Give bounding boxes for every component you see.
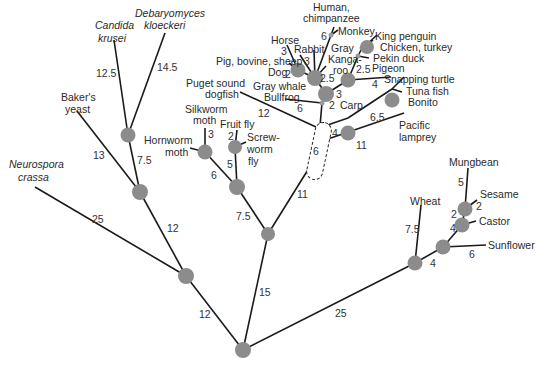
bl-fruitfly: 2	[228, 130, 234, 142]
species-neurospora: Neurospora	[9, 158, 64, 170]
bl-root-animals: 15	[259, 286, 271, 298]
species-screwworm-2: worm	[246, 143, 273, 155]
species-bakers-yeast-2: yeast	[65, 103, 90, 115]
bl-mammals: 2.5	[320, 72, 335, 84]
species-lamprey: Pacific	[399, 119, 430, 131]
bl-puget: 12	[258, 107, 270, 119]
node-human-monkey	[329, 33, 334, 38]
species-lamprey-2: lamprey	[399, 131, 437, 143]
node-fungi	[178, 268, 194, 284]
bl-vert-internal: 6	[313, 145, 319, 157]
species-wheat: Wheat	[410, 195, 440, 207]
bl-root-plants: 25	[335, 307, 347, 319]
species-debaryomyces: Debaryomyces	[135, 7, 206, 19]
bl-animals-vertebrates: 11	[297, 188, 308, 200]
species-bonito: Bonito	[408, 96, 438, 108]
species-mungbean: Mungbean	[449, 156, 499, 168]
node-candida-debaryomyces	[121, 128, 136, 143]
vertebrate-uncertain-region	[305, 121, 333, 181]
bl-dog: 2	[285, 68, 291, 80]
species-castor: Castor	[479, 215, 510, 227]
bl-root-fungi: 12	[199, 308, 211, 320]
node-root	[235, 342, 251, 358]
bl-amniote: 3	[336, 88, 342, 100]
node-wheat	[408, 256, 423, 271]
species-rabbit: Rabbit	[294, 43, 324, 55]
bl-bakers: 13	[93, 149, 105, 161]
node-chicken-penguin	[360, 40, 374, 54]
species-hornworm: Hornworm	[144, 134, 193, 146]
bl-castor: 4	[450, 222, 456, 234]
bl-mungbean: 5	[458, 176, 464, 188]
species-bakers-yeast: Baker's	[61, 91, 96, 103]
bl-birds: 2.5	[356, 63, 371, 75]
bl-lamprey: 11	[356, 139, 367, 151]
bl-horse: 3	[281, 45, 287, 57]
node-moths	[198, 145, 213, 160]
species-monkey: Monkey	[338, 25, 376, 37]
species-screwworm-3: fly	[248, 155, 259, 167]
species-kangaroo-3: roo	[333, 64, 348, 76]
node-carp	[341, 126, 356, 141]
species-bullfrog: Bullfrog	[264, 91, 300, 103]
bl-candida: 12.5	[96, 67, 117, 79]
bl-human: 6	[321, 30, 327, 42]
bl-fungi-yeasts: 12	[167, 222, 179, 234]
species-carp: Carp	[340, 99, 363, 111]
node-yeasts	[132, 184, 148, 200]
species-pig: Pig, bovine, sheep	[216, 55, 303, 67]
node-insects	[229, 179, 245, 195]
bl-sesame-castor: 2	[451, 208, 457, 220]
species-screwworm: Screw-	[247, 131, 280, 143]
bl-tuna: 6.5	[370, 111, 385, 123]
bl-plants-sunflower: 4	[430, 257, 436, 269]
bl-tetrapod: 2	[329, 99, 335, 111]
bl-sesame: 2	[476, 200, 482, 212]
species-sunflower: Sunflower	[488, 239, 535, 251]
bl-yeasts-cd: 7.5	[137, 154, 152, 166]
species-sesame: Sesame	[480, 188, 519, 200]
species-puget-2: dogfish	[205, 88, 239, 100]
bl-sunflower: 6	[469, 248, 475, 260]
bl-turtle: 4	[372, 78, 378, 90]
bl-bullfrog: 6	[297, 102, 303, 114]
bl-wheat: 7.5	[405, 223, 420, 235]
node-sunflower	[436, 240, 451, 255]
node-animals	[261, 227, 275, 241]
bl-carp: 4	[332, 127, 338, 139]
bl-insects-flies: 5	[227, 158, 233, 170]
bl-debaryomyces: 14.5	[157, 61, 178, 73]
species-debaryomyces-2: kloeckeri	[144, 19, 186, 31]
species-neurospora-2: crassa	[18, 171, 49, 183]
species-fruitfly: Fruit fly	[220, 118, 255, 130]
bl-insects-moths: 6	[211, 169, 217, 181]
species-candida: Candida	[95, 19, 134, 31]
bl-neurospora: 25	[92, 213, 104, 225]
bl-animals-insects: 7.5	[236, 210, 251, 222]
bl-silkworm: 3	[208, 128, 214, 140]
species-hornworm-2: moth	[165, 146, 189, 158]
bl-rabbit: 3	[304, 55, 310, 67]
species-silkworm-2: moth	[193, 114, 217, 126]
node-flies	[228, 140, 242, 154]
species-turtle: Snapping turtle	[384, 73, 455, 85]
phylogenetic-tree: Neurospora crassa Baker's yeast Candida …	[0, 0, 536, 365]
species-human-2: chimpanzee	[303, 12, 360, 24]
node-tuna-bonito	[385, 93, 400, 108]
species-candida-2: krusei	[98, 32, 127, 44]
node-sesame	[458, 202, 473, 217]
